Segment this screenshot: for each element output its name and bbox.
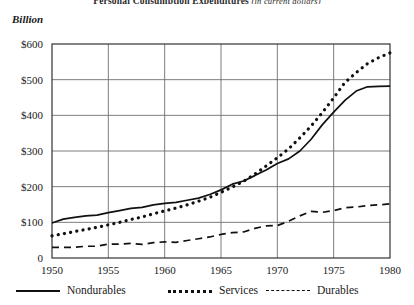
legend-item-nondurables[interactable]: Nondurables bbox=[16, 282, 126, 298]
x-tick-label: 1955 bbox=[97, 264, 120, 276]
legend-line-sample-dotted bbox=[168, 285, 212, 295]
legend-label: Services bbox=[219, 284, 258, 296]
chart-legend: NondurablesServicesDurables bbox=[0, 282, 414, 302]
legend-line-sample-dashed bbox=[266, 285, 310, 295]
plot-area: 0$100$200$300$400$500$600 19501955196019… bbox=[0, 0, 414, 285]
x-tick-label: 1950 bbox=[41, 264, 64, 276]
y-axis-tick-labels: 0$100$200$300$400$500$600 bbox=[21, 38, 44, 264]
legend-line-sample-solid bbox=[16, 285, 60, 295]
legend-item-durables[interactable]: Durables bbox=[266, 282, 359, 298]
y-tick-label: $200 bbox=[21, 181, 44, 193]
y-tick-label: $600 bbox=[21, 38, 44, 50]
x-tick-label: 1980 bbox=[379, 264, 402, 276]
y-tick-label: 0 bbox=[38, 252, 44, 264]
chart-figure: Personal Consumption Expenditures (in cu… bbox=[0, 0, 414, 305]
x-axis-tick-labels: 1950195519601965197019751980 bbox=[41, 264, 402, 276]
x-tick-label: 1975 bbox=[323, 264, 346, 276]
x-tick-label: 1960 bbox=[154, 264, 177, 276]
x-tick-label: 1970 bbox=[266, 264, 289, 276]
y-tick-label: $300 bbox=[21, 145, 44, 157]
legend-item-services[interactable]: Services bbox=[168, 282, 258, 298]
legend-label: Durables bbox=[317, 284, 359, 296]
y-tick-label: $500 bbox=[21, 74, 44, 86]
y-tick-label: $400 bbox=[21, 109, 44, 121]
y-tick-label: $100 bbox=[21, 216, 44, 228]
x-tick-label: 1965 bbox=[210, 264, 233, 276]
legend-label: Nondurables bbox=[67, 284, 126, 296]
